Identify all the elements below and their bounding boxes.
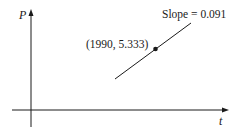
point-annotation: (1990, 5.333) bbox=[86, 39, 148, 51]
x-axis-arrow-icon bbox=[222, 108, 229, 113]
x-axis-label: t bbox=[219, 115, 222, 127]
chart: P t Slope = 0.091 (1990, 5.333) bbox=[0, 0, 242, 134]
data-point bbox=[153, 47, 158, 52]
tangent-line bbox=[115, 23, 191, 79]
y-axis-arrow-icon bbox=[29, 9, 34, 16]
slope-annotation: Slope = 0.091 bbox=[162, 9, 226, 21]
y-axis-label: P bbox=[19, 9, 26, 21]
